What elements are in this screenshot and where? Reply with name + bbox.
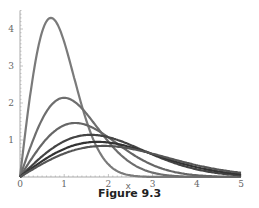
y-tick-label: 2 [8,98,14,108]
chart-plot: 0123451234x [0,0,259,208]
curves [20,18,241,177]
y-tick-label: 1 [8,135,14,145]
line-curve-2 [20,98,241,177]
figure-caption: Figure 9.3 [0,187,259,200]
y-tick-label: 4 [8,24,14,34]
y-tick-label: 3 [8,61,14,71]
